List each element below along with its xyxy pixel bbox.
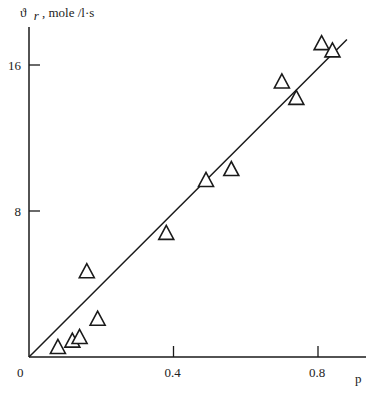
y-axis-symbol: ϑ <box>20 5 27 20</box>
data-points <box>50 36 340 354</box>
y-axis-subscript: r <box>34 8 40 23</box>
triangle-marker-icon <box>274 74 289 88</box>
labels: 0 p ϑ r , mole /l·s 0.40.8816 <box>8 5 362 386</box>
fit-line <box>29 39 347 357</box>
x-axis-title: p <box>355 371 362 386</box>
y-tick-label: 8 <box>15 204 22 219</box>
triangle-marker-icon <box>50 339 65 353</box>
triangle-marker-icon <box>314 36 329 50</box>
origin-label: 0 <box>17 365 24 380</box>
y-tick-label: 16 <box>8 58 22 73</box>
x-tick-label: 0.8 <box>309 365 325 380</box>
x-tick-label: 0.4 <box>165 365 182 380</box>
y-axis-units: , mole /l·s <box>42 5 94 20</box>
y-axis-title: ϑ r , mole /l·s <box>20 5 94 23</box>
triangle-marker-icon <box>159 225 174 239</box>
triangle-marker-icon <box>289 90 304 104</box>
triangle-marker-icon <box>90 311 105 325</box>
chart-canvas: 0 p ϑ r , mole /l·s 0.40.8816 <box>0 0 379 393</box>
triangle-marker-icon <box>224 162 239 176</box>
regression-line <box>29 39 347 357</box>
triangle-marker-icon <box>79 264 94 278</box>
